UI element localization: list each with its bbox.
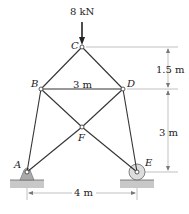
joints [25,45,139,174]
dimension-bd-span: 3 m [73,80,92,90]
member-BF [41,89,82,127]
dimension-lower-height: 3 m [159,128,178,138]
truss-members [27,47,137,172]
node-label-F: F [78,133,85,143]
node-label-B: B [31,79,38,89]
node-label-D: D [127,79,135,89]
dimension-arrowheads [28,48,170,195]
node-label-C: C [71,41,79,51]
member-FE [82,127,137,172]
dimension-base-span: 4 m [74,188,93,198]
dimension-upper-height: 1.5 m [156,65,185,75]
member-FD [82,89,123,127]
truss-diagram [0,0,189,214]
member-AF [27,127,82,172]
node-label-E: E [145,158,152,168]
node-label-A: A [14,160,21,170]
load-arrow-icon [79,22,85,45]
member-AB [27,89,41,172]
load-label: 8 kN [70,7,94,17]
member-DE [123,89,137,172]
